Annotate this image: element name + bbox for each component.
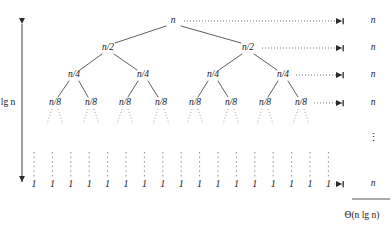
recursion-tree-figure: lg n n n/2 n/2 n/4 n/4 n/4 n/4 n/8 n/8 n… bbox=[0, 0, 392, 237]
tree-node: n/8 bbox=[49, 98, 61, 108]
tree-node: n/8 bbox=[259, 98, 271, 108]
leaf-node: 1 bbox=[234, 179, 239, 189]
leaf-node: 1 bbox=[252, 179, 257, 189]
tree-node: n/8 bbox=[295, 98, 307, 108]
leaf-node: 1 bbox=[124, 179, 129, 189]
level-cost: n bbox=[371, 70, 376, 80]
subtree-continuation-dashes bbox=[47, 109, 309, 124]
level-cost: n bbox=[371, 98, 376, 108]
tree-graphics bbox=[0, 0, 392, 237]
tree-node: n/4 bbox=[207, 70, 219, 80]
tree-node: n/8 bbox=[155, 98, 167, 108]
leaf-node: 1 bbox=[216, 179, 221, 189]
level-cost: n bbox=[371, 43, 376, 53]
tree-node: n/4 bbox=[277, 70, 289, 80]
leaf-node: 1 bbox=[68, 179, 73, 189]
leaf-node: 1 bbox=[50, 179, 55, 189]
tree-node: n/8 bbox=[225, 98, 237, 108]
leaf-node: 1 bbox=[142, 179, 147, 189]
leaf-node: 1 bbox=[160, 179, 165, 189]
total-cost-label: Θ(n lg n) bbox=[345, 211, 380, 221]
leaf-node: 1 bbox=[289, 179, 294, 189]
leaf-node: 1 bbox=[308, 179, 313, 189]
tree-node: n/2 bbox=[242, 43, 254, 53]
level-cost: n bbox=[371, 179, 376, 189]
vertical-ellipsis: ⋮ bbox=[368, 132, 379, 143]
tree-node-root: n bbox=[171, 16, 176, 26]
leaf-node: 1 bbox=[32, 179, 37, 189]
leaf-node: 1 bbox=[179, 179, 184, 189]
tree-node: n/8 bbox=[119, 98, 131, 108]
tree-node: n/8 bbox=[189, 98, 201, 108]
leaf-node: 1 bbox=[326, 179, 331, 189]
tree-node: n/4 bbox=[68, 70, 80, 80]
level-cost: n bbox=[371, 16, 376, 26]
tree-node: n/2 bbox=[102, 43, 114, 53]
tree-node: n/8 bbox=[85, 98, 97, 108]
depth-label: lg n bbox=[1, 98, 16, 108]
leaf-node: 1 bbox=[87, 179, 92, 189]
leaf-node: 1 bbox=[197, 179, 202, 189]
tree-edges bbox=[58, 26, 298, 97]
leaf-node: 1 bbox=[105, 179, 110, 189]
leaf-node: 1 bbox=[271, 179, 276, 189]
tree-node: n/4 bbox=[137, 70, 149, 80]
leaf-stems bbox=[34, 152, 328, 177]
